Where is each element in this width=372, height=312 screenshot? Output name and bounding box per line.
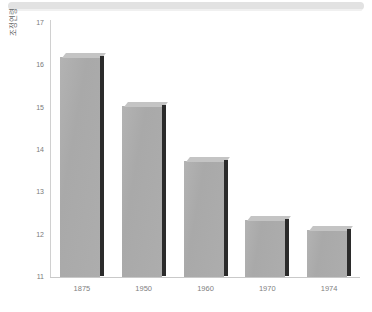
bar bbox=[184, 161, 224, 277]
y-axis-line bbox=[50, 20, 51, 277]
bar-face bbox=[122, 106, 162, 277]
bar-face bbox=[307, 230, 347, 277]
y-axis-title: 조정연령 bbox=[7, 0, 18, 50]
x-axis-tick-label: 1974 bbox=[298, 284, 360, 293]
bar-face bbox=[60, 57, 100, 277]
y-axis-tick-label: 12 bbox=[22, 231, 44, 239]
x-axis-tick-label: 1960 bbox=[175, 284, 237, 293]
bar bbox=[307, 230, 347, 277]
bar-side-face bbox=[224, 160, 228, 276]
x-axis-tick-label: 1950 bbox=[113, 284, 175, 293]
y-axis-tick-label: 14 bbox=[22, 146, 44, 154]
bar bbox=[60, 57, 100, 277]
bar bbox=[245, 220, 285, 277]
x-axis-tick-label: 1875 bbox=[51, 284, 113, 293]
x-axis-line bbox=[50, 277, 360, 278]
bar-side-face bbox=[100, 56, 104, 276]
bar-side-face bbox=[285, 219, 289, 276]
bar-side-face bbox=[347, 229, 351, 276]
y-axis-tick-label: 16 bbox=[22, 61, 44, 69]
bar bbox=[122, 106, 162, 277]
y-axis-tick-label: 13 bbox=[22, 188, 44, 196]
y-axis-tick-label: 15 bbox=[22, 104, 44, 112]
bar-side-face bbox=[162, 105, 166, 276]
bar-face bbox=[184, 161, 224, 277]
y-axis-tick-label: 11 bbox=[22, 273, 44, 281]
bar-chart: 조정연령 11121314151617 18751950196019701974 bbox=[0, 0, 372, 312]
bar-face bbox=[245, 220, 285, 277]
y-axis-tick-label: 17 bbox=[22, 19, 44, 27]
chart-page: 조정연령 11121314151617 18751950196019701974 bbox=[0, 0, 372, 312]
x-axis-tick-label: 1970 bbox=[236, 284, 298, 293]
